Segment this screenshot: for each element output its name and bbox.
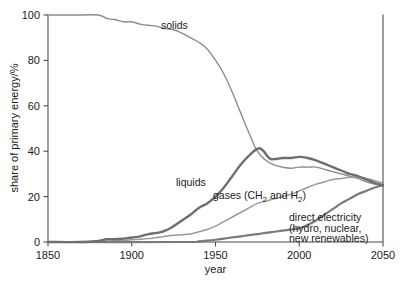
y-tick-label-0: 0 — [34, 236, 40, 248]
x-tick-label-1950: 1950 — [203, 249, 227, 261]
gases-annotation: gases (CH2 and H2) — [213, 189, 306, 204]
x-tick-label-2050: 2050 — [371, 249, 395, 261]
chart-svg: 0 20 40 60 80 100 1850 1900 1950 2000 20… — [0, 0, 408, 281]
direct-electricity-line3: new renewables) — [289, 232, 368, 244]
y-tick-label-20: 20 — [28, 191, 40, 203]
liquids-annotation: liquids — [176, 176, 206, 188]
series-line-solids — [48, 15, 383, 187]
gases-label-prefix: gases (CH — [213, 189, 263, 201]
gases-label-mid: and H — [267, 189, 298, 201]
x-ticks-group: 1850 1900 1950 2000 2050 — [36, 242, 395, 261]
y-ticks-group: 0 20 40 60 80 100 — [22, 9, 48, 248]
y-tick-label-100: 100 — [22, 9, 40, 21]
solids-annotation: solids — [161, 19, 188, 31]
y-tick-label-60: 60 — [28, 100, 40, 112]
energy-share-chart: 0 20 40 60 80 100 1850 1900 1950 2000 20… — [0, 0, 408, 281]
direct-electricity-annotation: direct electricity (hydro, nuclear, new … — [289, 211, 368, 244]
x-axis-title: year — [205, 263, 227, 275]
y-tick-label-40: 40 — [28, 145, 40, 157]
x-tick-label-2000: 2000 — [287, 249, 311, 261]
y-axis-title: share of primary energy/% — [8, 63, 20, 192]
gases-label-suffix: ) — [302, 189, 306, 201]
y-tick-label-80: 80 — [28, 54, 40, 66]
series-group — [48, 15, 383, 242]
x-tick-label-1900: 1900 — [120, 249, 144, 261]
x-tick-label-1850: 1850 — [36, 249, 60, 261]
